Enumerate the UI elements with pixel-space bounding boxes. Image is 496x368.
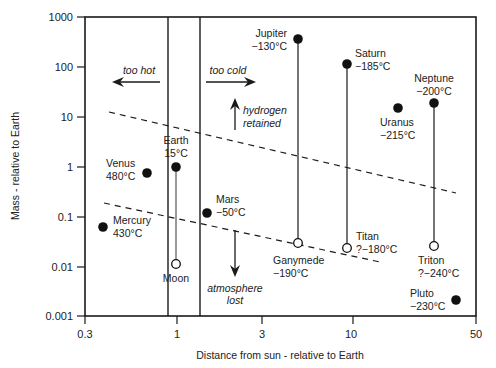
titan-temp: ?−180°C [356, 243, 398, 255]
venus-name: Venus [106, 157, 135, 169]
earth-temp: 15°C [164, 147, 188, 159]
hydrogen-retained-arrow [230, 98, 240, 130]
x-tick-label: 3 [259, 328, 265, 340]
too-cold-arrow [206, 77, 256, 87]
ganymede-temp: −190°C [273, 267, 309, 279]
ganymede-point [294, 239, 303, 248]
y-axis: 1000 100 10 1 0.1 0.01 0.001 Mass - rela… [9, 11, 85, 322]
y-tick-label: 10 [61, 111, 73, 123]
saturn-temp: −185°C [355, 60, 391, 72]
x-tick-label: 1 [174, 328, 180, 340]
moon-point [172, 260, 181, 269]
triton-temp: ?−240°C [418, 267, 460, 279]
mars-name: Mars [216, 193, 239, 205]
triton-name: Triton [418, 254, 445, 266]
x-tick-label: 10 [345, 328, 357, 340]
saturn-point [342, 59, 352, 69]
mercury-name: Mercury [113, 214, 152, 226]
venus-point [142, 168, 152, 178]
chart-canvas: 1000 100 10 1 0.1 0.01 0.001 Mass - rela… [0, 0, 496, 368]
ganymede-name: Ganymede [273, 254, 325, 266]
hydrogen-label: hydrogen [243, 104, 287, 116]
uranus-point [393, 103, 403, 113]
uranus-temp: −215°C [380, 129, 416, 141]
retained-label: retained [243, 117, 282, 129]
mercury-point [98, 222, 108, 232]
mercury-temp: 430°C [113, 227, 143, 239]
earth-name: Earth [163, 134, 188, 146]
jupiter-temp: −130°C [252, 40, 288, 52]
y-axis-title: Mass - relative to Earth [9, 112, 21, 220]
y-tick-label: 0.1 [58, 211, 73, 223]
y-tick-label: 100 [55, 61, 73, 73]
lost-label: lost [227, 294, 244, 306]
saturn-name: Saturn [355, 47, 386, 59]
atmosphere-lost-arrow [230, 230, 240, 277]
x-axis: 0.3 1 3 10 50 Distance from sun - relati… [77, 316, 482, 361]
too-hot-label: too hot [123, 64, 156, 76]
mars-temp: −50°C [216, 206, 246, 218]
too-cold-label: too cold [210, 64, 248, 76]
x-axis-title: Distance from sun - relative to Earth [196, 349, 364, 361]
triton-point [430, 242, 439, 251]
titan-point [343, 244, 352, 253]
pluto-name: Pluto [410, 287, 434, 299]
x-tick-label: 50 [470, 328, 482, 340]
y-tick-label: 0.01 [52, 261, 73, 273]
neptune-name: Neptune [414, 72, 454, 84]
neptune-temp: −200°C [416, 85, 452, 97]
jupiter-point [293, 34, 303, 44]
pluto-point [451, 295, 461, 305]
x-tick-label: 0.3 [77, 328, 92, 340]
y-tick-label: 0.001 [45, 310, 73, 322]
too-hot-arrow [112, 77, 160, 87]
neptune-point [429, 98, 439, 108]
atmosphere-label: atmosphere [207, 282, 263, 294]
venus-temp: 480°C [106, 170, 136, 182]
pluto-temp: −230°C [410, 300, 446, 312]
earth-point [171, 162, 181, 172]
y-tick-label: 1 [67, 161, 73, 173]
titan-name: Titan [356, 230, 379, 242]
mars-point [202, 208, 212, 218]
jupiter-name: Jupiter [255, 27, 287, 39]
moon-name: Moon [163, 272, 189, 284]
uranus-name: Uranus [380, 116, 414, 128]
y-tick-label: 1000 [49, 11, 73, 23]
